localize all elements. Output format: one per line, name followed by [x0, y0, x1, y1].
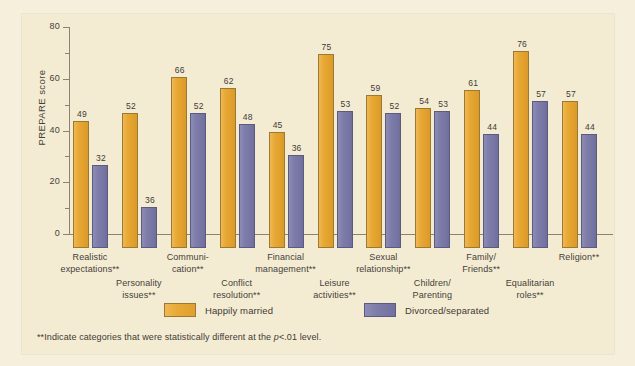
bar-group: 5236 — [122, 41, 170, 248]
legend-item: Happily married — [164, 303, 273, 317]
footnote: **Indicate categories that were statisti… — [37, 332, 321, 342]
bar: 76 — [513, 51, 529, 248]
bar: 44 — [483, 134, 499, 248]
bar-value-label: 52 — [184, 101, 214, 111]
footnote-text: **Indicate categories that were statisti… — [37, 332, 274, 342]
chart-panel: PREPARE score 020406080 4932523666526248… — [22, 14, 614, 354]
bar: 59 — [366, 95, 382, 248]
x-axis-label-line: roles** — [478, 290, 582, 302]
bar-value-label: 52 — [379, 101, 409, 111]
bar-value-label: 44 — [477, 122, 507, 132]
bar-group: 7657 — [513, 41, 561, 248]
y-axis-tick-label: 40 — [30, 125, 60, 135]
x-axis-label: Leisureactivities** — [283, 278, 387, 301]
bar-value-label: 62 — [214, 76, 244, 86]
x-axis-label-line: Financial — [234, 252, 338, 264]
x-axis-label-line: Conflict — [185, 278, 289, 290]
x-axis-label-line: resolution** — [185, 290, 289, 302]
legend-swatch — [364, 303, 396, 317]
bar-value-label: 48 — [233, 112, 263, 122]
legend-item: Divorced/separated — [364, 303, 489, 317]
bar: 36 — [141, 207, 157, 248]
x-axis-label: Sexualrelationship** — [331, 252, 435, 275]
chart-legend: Happily marriedDivorced/separated — [22, 303, 614, 323]
y-axis-tick-label: 80 — [30, 21, 60, 31]
x-axis-label-line: Communi- — [136, 252, 240, 264]
bar: 54 — [415, 108, 431, 248]
y-axis-tick-label: 0 — [30, 228, 60, 238]
bar: 52 — [190, 113, 206, 248]
bar-value-label: 32 — [86, 153, 116, 163]
x-axis-label: Family/Friends** — [429, 252, 533, 275]
x-axis-label-line: Sexual — [331, 252, 435, 264]
x-axis-label-line: relationship** — [331, 264, 435, 276]
bar-value-label: 52 — [116, 101, 146, 111]
bar-group: 5453 — [415, 41, 463, 248]
x-axis-label: Conflictresolution** — [185, 278, 289, 301]
bar: 57 — [532, 101, 548, 248]
x-axis-label-line: Personality — [87, 278, 191, 290]
bar-value-label: 57 — [526, 89, 556, 99]
bar-value-label: 36 — [282, 143, 312, 153]
x-axis-label-line: Friends** — [429, 264, 533, 276]
bar: 36 — [288, 155, 304, 248]
legend-swatch — [164, 303, 196, 317]
bar-value-label: 59 — [360, 83, 390, 93]
bar: 61 — [464, 90, 480, 248]
bar-value-label: 44 — [575, 122, 605, 132]
x-axis-label-line: Leisure — [283, 278, 387, 290]
bar-value-label: 53 — [331, 99, 361, 109]
x-axis-label: Communi-cation** — [136, 252, 240, 275]
x-axis-label-line: Children/ — [380, 278, 484, 290]
bar-value-label: 61 — [458, 78, 488, 88]
legend-label: Happily married — [205, 305, 273, 316]
x-axis-label-line: Religion** — [527, 252, 631, 264]
x-axis-label-line: Equalitarian — [478, 278, 582, 290]
bar-group: 4536 — [269, 41, 317, 248]
x-axis-label-line: Family/ — [429, 252, 533, 264]
bar: 52 — [122, 113, 138, 248]
y-axis-tick-label: 60 — [30, 73, 60, 83]
bar-value-label: 75 — [312, 42, 342, 52]
x-axis-label-line: activities** — [283, 290, 387, 302]
x-axis-label: Equalitarianroles** — [478, 278, 582, 301]
bar-value-label: 36 — [135, 195, 165, 205]
x-axis-label: Children/Parenting — [380, 278, 484, 301]
bar: 53 — [337, 111, 353, 248]
bar-value-label: 66 — [165, 65, 195, 75]
bar-value-label: 76 — [507, 39, 537, 49]
x-axis-label-line: cation** — [136, 264, 240, 276]
y-axis-tick-labels: 020406080 — [22, 14, 60, 254]
bar-value-label: 49 — [67, 109, 97, 119]
scanned-page: PREPARE score 020406080 4932523666526248… — [0, 0, 635, 366]
plot-area: 4932523666526248453675535952545361447657… — [69, 27, 607, 248]
bar-group: 4932 — [73, 41, 121, 248]
bar-group: 5952 — [366, 41, 414, 248]
bar: 48 — [239, 124, 255, 248]
bar: 75 — [318, 54, 334, 248]
bar-group: 6652 — [171, 41, 219, 248]
x-axis-label: Financialmanagement** — [234, 252, 338, 275]
x-axis-label-line: Parenting — [380, 290, 484, 302]
bar: 32 — [92, 165, 108, 248]
bar: 52 — [385, 113, 401, 248]
bar-group: 6248 — [220, 41, 268, 248]
x-axis-label-line: expectations** — [38, 264, 142, 276]
footnote-threshold: <.01 level. — [279, 332, 321, 342]
bar: 49 — [73, 121, 89, 248]
bar-value-label: 57 — [556, 89, 586, 99]
x-axis-label: Realisticexpectations** — [38, 252, 142, 275]
x-axis-label: Personalityissues** — [87, 278, 191, 301]
bar-group: 6144 — [464, 41, 512, 248]
x-axis-label: Religion** — [527, 252, 631, 264]
bar-value-label: 45 — [263, 120, 293, 130]
bar-value-label: 53 — [428, 99, 458, 109]
bar-group: 5744 — [562, 41, 610, 248]
x-axis-label-line: issues** — [87, 290, 191, 302]
x-axis-label-line: management** — [234, 264, 338, 276]
bar: 44 — [581, 134, 597, 248]
y-axis-tick-label: 20 — [30, 176, 60, 186]
bar: 53 — [434, 111, 450, 248]
x-axis-label-line: Realistic — [38, 252, 142, 264]
legend-label: Divorced/separated — [405, 305, 489, 316]
